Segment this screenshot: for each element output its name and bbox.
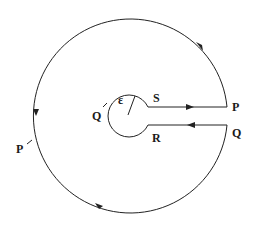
label-Q-right: Q [232, 126, 241, 140]
label-R: R [152, 131, 161, 145]
p-left-tick [27, 140, 32, 144]
arrow-right-icon [186, 104, 194, 110]
epsilon-radius-line [128, 96, 135, 115]
keyhole-contour-diagram: ε S P R Q Q P [0, 0, 253, 230]
arrow-upper-arc-icon [196, 42, 203, 51]
arrow-bottom-arc-icon [95, 203, 103, 209]
label-Q-left: Q [92, 109, 101, 123]
small-circle [108, 95, 148, 137]
label-epsilon: ε [118, 93, 123, 107]
q-left-tick [103, 103, 107, 107]
label-S: S [153, 91, 160, 105]
label-P-left: P [16, 142, 23, 156]
label-P-right: P [232, 100, 239, 114]
large-arc [33, 19, 227, 213]
arrow-left-icon [187, 122, 195, 128]
